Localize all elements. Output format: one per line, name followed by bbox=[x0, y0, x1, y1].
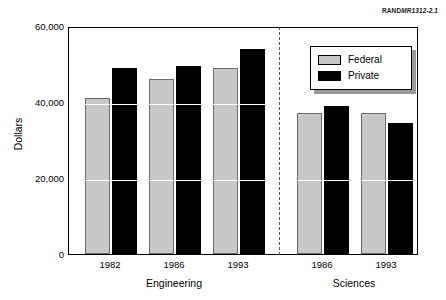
y-axis-tick-label: 0 bbox=[18, 249, 64, 260]
bar-federal bbox=[213, 68, 238, 254]
bar-federal bbox=[361, 113, 386, 254]
x-axis-tick-label: 1986 bbox=[292, 259, 352, 270]
bar-federal bbox=[297, 113, 322, 254]
gridline bbox=[69, 104, 417, 105]
y-axis-tick-labels: 020,00040,00060,000 bbox=[12, 0, 64, 300]
bar-private bbox=[176, 66, 201, 254]
chart-legend: Federal Private bbox=[310, 46, 412, 90]
legend-swatch-federal-icon bbox=[318, 55, 341, 65]
bar-federal bbox=[85, 98, 110, 254]
y-axis-tick-label: 60,000 bbox=[18, 21, 64, 32]
legend-label-private: Private bbox=[348, 71, 379, 81]
bar-private bbox=[240, 49, 265, 254]
x-axis-group-label: Engineering bbox=[124, 277, 224, 289]
y-axis-tick-label: 40,000 bbox=[18, 97, 64, 108]
gridline bbox=[69, 180, 417, 181]
bar-private bbox=[112, 68, 137, 254]
bar-chart-figure: RANDMR1312-2.1 Dollars 020,00040,00060,0… bbox=[0, 0, 446, 300]
source-tag-prefix: RAND bbox=[382, 7, 401, 14]
x-axis-tick-label: 1986 bbox=[144, 259, 204, 270]
x-axis-tick-label: 1993 bbox=[356, 259, 416, 270]
x-axis-group-label: Sciences bbox=[304, 277, 404, 289]
bar-private bbox=[388, 123, 413, 254]
legend-item-private: Private bbox=[318, 68, 411, 84]
source-tag-code: MR1312-2.1 bbox=[401, 7, 438, 14]
legend-item-federal: Federal bbox=[318, 52, 411, 68]
source-tag: RANDMR1312-2.1 bbox=[382, 7, 438, 14]
x-axis-tick-label: 1993 bbox=[208, 259, 268, 270]
legend-swatch-private-icon bbox=[318, 71, 341, 81]
legend-label-federal: Federal bbox=[348, 55, 382, 65]
bar-federal bbox=[149, 79, 174, 254]
x-axis-tick-label: 1982 bbox=[80, 259, 140, 270]
y-axis-tick-label: 20,000 bbox=[18, 173, 64, 184]
group-divider bbox=[279, 27, 280, 255]
